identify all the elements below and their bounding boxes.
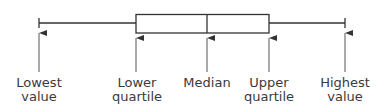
label-highest-value: Highest value bbox=[305, 76, 384, 104]
interquartile-box bbox=[136, 15, 269, 34]
label-upper-quartile: Upper quartile bbox=[229, 76, 309, 104]
label-lower-quartile: Lower quartile bbox=[97, 76, 177, 104]
label-lowest-value: Lowest value bbox=[0, 76, 79, 104]
